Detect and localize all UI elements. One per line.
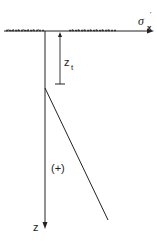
- horizontal-axis: [4, 29, 154, 34]
- x-axis-label-prime: ': [150, 11, 151, 18]
- sign-label: (+): [51, 162, 65, 174]
- vertical-axis: [43, 31, 48, 229]
- depth-label-subscript: t: [71, 63, 74, 72]
- stress-depth-diagram: σ ' x z t (+) z: [0, 0, 157, 242]
- x-axis-label-subscript: x: [147, 23, 152, 32]
- stress-line: [45, 88, 108, 220]
- arrow-down-icon: [43, 222, 48, 229]
- z-axis-label: z: [33, 221, 39, 233]
- depth-label: z: [64, 56, 70, 68]
- arrow-up-icon: [58, 32, 62, 37]
- x-axis-label: σ: [138, 14, 145, 28]
